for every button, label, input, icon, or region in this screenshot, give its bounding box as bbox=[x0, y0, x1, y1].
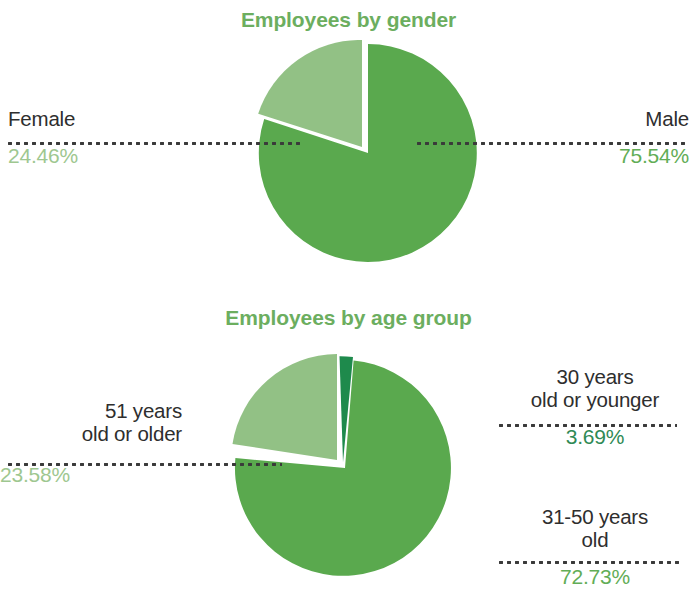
infographic-page: Employees by gender Female 24.46% Male 7… bbox=[0, 0, 697, 604]
chart-title-gender: Employees by gender bbox=[0, 8, 697, 32]
callout-31-50-years-old-value: 72.73% bbox=[500, 565, 690, 589]
callout-31-50-years-old: 31-50 years old 72.73% bbox=[500, 506, 690, 588]
callout-31-50-years-old-label-line1: 31-50 years bbox=[500, 506, 690, 529]
callout-female-value: 24.46% bbox=[8, 144, 248, 168]
callout-51-years-or-older-label-line1: 51 years bbox=[0, 400, 182, 423]
pie-slice-51-years-or-older bbox=[233, 354, 338, 460]
callout-30-years-or-younger-label-line2: old or younger bbox=[500, 389, 690, 412]
callout-51-years-or-older: 51 years old or older 23.58% bbox=[0, 400, 182, 486]
callout-male-label: Male bbox=[457, 108, 689, 131]
chart-title-age-group: Employees by age group bbox=[0, 306, 697, 330]
leader-line-30-years-or-younger bbox=[497, 424, 677, 427]
callout-female: Female 24.46% bbox=[8, 108, 248, 167]
callout-30-years-or-younger-value: 3.69% bbox=[500, 425, 690, 449]
leader-line-31-50-years-old bbox=[497, 561, 679, 564]
callout-male: Male 75.54% bbox=[457, 108, 689, 167]
callout-51-years-or-older-value: 23.58% bbox=[0, 463, 182, 487]
pie-chart-gender bbox=[255, 40, 480, 265]
callout-30-years-or-younger: 30 years old or younger 3.69% bbox=[500, 366, 690, 448]
leader-line-51-years-or-older bbox=[6, 463, 282, 466]
callout-30-years-or-younger-label-line1: 30 years bbox=[500, 366, 690, 389]
callout-female-label: Female bbox=[8, 108, 248, 131]
callout-male-value: 75.54% bbox=[457, 144, 689, 168]
leader-line-female bbox=[6, 142, 302, 145]
callout-31-50-years-old-label-line2: old bbox=[500, 529, 690, 552]
leader-line-male bbox=[415, 142, 687, 145]
callout-51-years-or-older-label-line2: old or older bbox=[0, 423, 182, 446]
pie-chart-age-group bbox=[225, 350, 460, 585]
